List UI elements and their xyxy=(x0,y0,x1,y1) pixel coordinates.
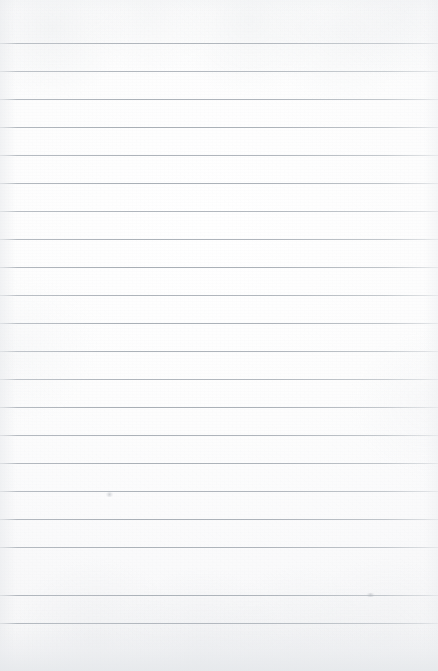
ruled-paper-sheet xyxy=(0,0,438,671)
writing-area[interactable] xyxy=(0,0,438,671)
